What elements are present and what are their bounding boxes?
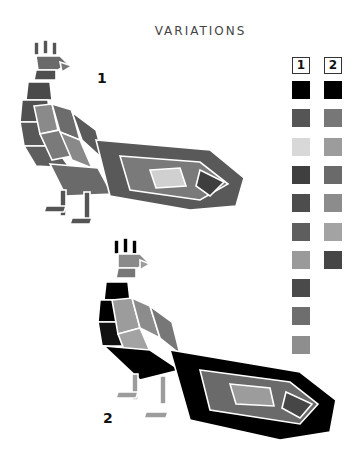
color-swatch-1-3 [292,138,310,156]
color-swatch-2-5 [324,194,342,212]
color-swatch-2-4 [324,166,342,184]
color-swatch-2-2 [324,109,342,127]
color-swatch-2-3 [324,138,342,156]
color-swatch-2-6 [324,223,342,241]
color-swatch-1-8 [292,279,310,297]
color-swatch-1-9 [292,307,310,325]
color-swatch-1-6 [292,223,310,241]
color-swatch-2-7 [324,251,342,269]
color-swatch-2-1 [324,81,342,99]
color-swatch-1-4 [292,166,310,184]
variation-label-1: 1 [97,70,107,86]
color-swatch-1-1 [292,81,310,99]
color-swatch-1-7 [292,251,310,269]
color-swatch-1-10 [292,336,310,354]
palette-column-header-1: 1 [292,57,310,74]
color-swatch-1-2 [292,109,310,127]
palette-column-header-2: 2 [324,57,342,74]
variation-label-2: 2 [103,410,113,426]
color-swatch-1-5 [292,194,310,212]
